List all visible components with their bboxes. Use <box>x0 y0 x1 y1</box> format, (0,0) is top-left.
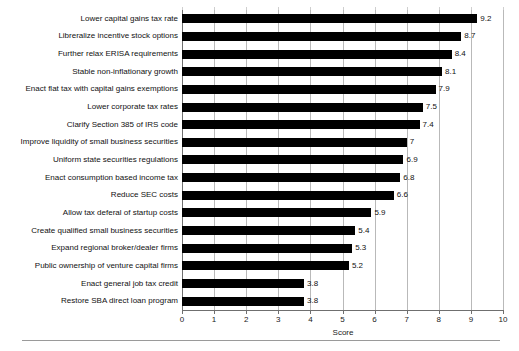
category-label: Lower corporate tax rates <box>0 102 178 111</box>
bar-value-label: 3.8 <box>307 279 318 288</box>
category-label: Allow tax deferal of startup costs <box>0 208 178 217</box>
bar-row: Enact flat tax with capital gains exempt… <box>0 81 519 98</box>
bar-value-label: 8.4 <box>455 49 466 58</box>
category-label: Enact flat tax with capital gains exempt… <box>0 84 178 93</box>
bar <box>182 191 394 200</box>
bar-row: Create qualified small business securiti… <box>0 222 519 239</box>
tick-label: 6 <box>372 315 376 325</box>
tick-label: 10 <box>499 315 508 325</box>
tick-label: 7 <box>404 315 408 325</box>
bar-row: Enact consumption based income tax6.8 <box>0 169 519 186</box>
tick-label: 4 <box>308 315 312 325</box>
category-label: Reduce SEC costs <box>0 190 178 199</box>
bar-row: Further relax ERISA requirements8.4 <box>0 45 519 62</box>
category-label: Public ownership of venture capital firm… <box>0 261 178 270</box>
tick-label: 3 <box>276 315 280 325</box>
bar-value-label: 5.9 <box>374 208 385 217</box>
bar <box>182 155 403 164</box>
bar <box>182 244 352 253</box>
tick-mark <box>439 310 440 314</box>
category-label: Expand regional broker/dealer firms <box>0 243 178 252</box>
bar-row: Lower capital gains tax rate9.2 <box>0 10 519 27</box>
tick-label: 5 <box>340 315 344 325</box>
tick-mark <box>407 310 408 314</box>
category-label: Clarify Section 385 of IRS code <box>0 120 178 129</box>
bar <box>182 32 461 41</box>
tick-mark <box>503 310 504 314</box>
bar <box>182 14 477 23</box>
bar-value-label: 5.2 <box>352 261 363 270</box>
category-label: Further relax ERISA requirements <box>0 49 178 58</box>
bar-row: Uniform state securities regulations6.9 <box>0 151 519 168</box>
tick-mark <box>182 310 183 314</box>
tick-mark <box>471 310 472 314</box>
tick-mark <box>246 310 247 314</box>
category-label: Stable non-inflationary growth <box>0 67 178 76</box>
bar-value-label: 7.9 <box>439 84 450 93</box>
bar-row: Restore SBA direct loan program3.8 <box>0 292 519 309</box>
bar <box>182 120 420 129</box>
bar-value-label: 7 <box>410 137 414 146</box>
tick-mark <box>278 310 279 314</box>
bar <box>182 226 355 235</box>
tick-label: 0 <box>180 315 184 325</box>
bar-value-label: 5.4 <box>358 226 369 235</box>
bar <box>182 50 452 59</box>
bar <box>182 173 400 182</box>
bar <box>182 138 407 147</box>
bar-row: Reduce SEC costs6.6 <box>0 186 519 203</box>
tick-label: 8 <box>437 315 441 325</box>
bar-value-label: 6.9 <box>406 155 417 164</box>
bar <box>182 208 371 217</box>
bar <box>182 67 442 76</box>
tick-mark <box>310 310 311 314</box>
bar-row: Expand regional broker/dealer firms5.3 <box>0 239 519 256</box>
bar-value-label: 3.8 <box>307 296 318 305</box>
category-label: Enact general job tax credit <box>0 279 178 288</box>
bar <box>182 85 436 94</box>
bar-value-label: 7.5 <box>426 102 437 111</box>
bar-row: Public ownership of venture capital firm… <box>0 257 519 274</box>
category-label: Restore SBA direct loan program <box>0 296 178 305</box>
tick-label: 2 <box>244 315 248 325</box>
bar-value-label: 5.3 <box>355 243 366 252</box>
tick-mark <box>375 310 376 314</box>
category-label: Libreralize incentive stock options <box>0 31 178 40</box>
bar-value-label: 7.4 <box>423 120 434 129</box>
bar-row: Lower corporate tax rates7.5 <box>0 98 519 115</box>
bar <box>182 279 304 288</box>
bar-row: Improve liquidity of small business secu… <box>0 134 519 151</box>
bar-value-label: 8.7 <box>464 31 475 40</box>
footer-rule <box>22 340 500 341</box>
bar-value-label: 8.1 <box>445 67 456 76</box>
bar-row: Allow tax deferal of startup costs5.9 <box>0 204 519 221</box>
category-label: Improve liquidity of small business secu… <box>0 137 178 146</box>
bar-row: Enact general job tax credit3.8 <box>0 275 519 292</box>
category-label: Enact consumption based income tax <box>0 173 178 182</box>
bar <box>182 297 304 306</box>
bar-row: Clarify Section 385 of IRS code7.4 <box>0 116 519 133</box>
tick-mark <box>214 310 215 314</box>
tick-label: 1 <box>212 315 216 325</box>
bar-chart: 012345678910 Lower capital gains tax rat… <box>0 0 519 351</box>
bar-value-label: 9.2 <box>480 14 491 23</box>
category-label: Create qualified small business securiti… <box>0 226 178 235</box>
bar <box>182 103 423 112</box>
bar-row: Libreralize incentive stock options8.7 <box>0 28 519 45</box>
tick-label: 9 <box>469 315 473 325</box>
bar-row: Stable non-inflationary growth8.1 <box>0 63 519 80</box>
category-label: Uniform state securities regulations <box>0 155 178 164</box>
category-label: Lower capital gains tax rate <box>0 14 178 23</box>
tick-mark <box>343 310 344 314</box>
bar <box>182 261 349 270</box>
bar-value-label: 6.6 <box>397 190 408 199</box>
bar-value-label: 6.8 <box>403 173 414 182</box>
x-axis-title: Score <box>182 328 504 337</box>
